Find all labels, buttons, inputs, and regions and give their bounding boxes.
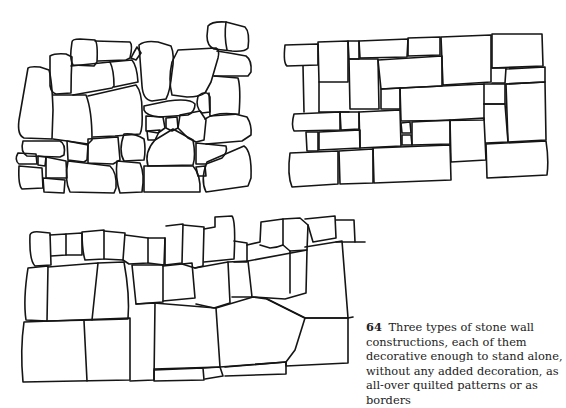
figure-caption: 64 Three types of stone wall constructio… (366, 320, 566, 408)
rectangular-stone-wall-drawing (280, 20, 566, 200)
coursed-stone-wall-drawing (0, 200, 380, 397)
polygonal-stone-wall-drawing (0, 0, 283, 200)
figure-number: 64 (366, 320, 382, 334)
caption-text: Three types of stone wall constructions,… (366, 320, 563, 407)
